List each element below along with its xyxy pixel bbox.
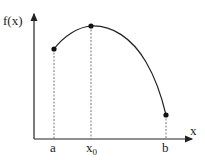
point-x0	[88, 23, 93, 28]
label-b: b	[162, 140, 169, 155]
x-axis-label: x	[190, 123, 197, 138]
label-x0: x0	[86, 140, 98, 157]
label-a: a	[50, 140, 56, 155]
function-curve	[54, 26, 166, 115]
function-diagram: f(x) x a x0 b	[0, 0, 205, 160]
point-a	[51, 46, 56, 51]
point-b	[163, 112, 168, 117]
label-x0-subscript: 0	[93, 147, 98, 157]
y-axis-label: f(x)	[3, 13, 23, 28]
